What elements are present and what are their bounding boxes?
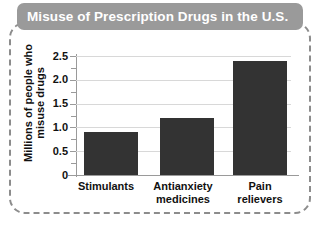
xtick-label-stimulants-line-1: Stimulants: [62, 180, 150, 193]
chart-figure: Misuse of Prescription Drugs in the U.S.…: [0, 0, 327, 230]
ytick-label-2-5: 2.5: [42, 51, 68, 62]
xtick-label-pain-line-2: relievers: [216, 193, 304, 206]
tick-2-0: [70, 80, 76, 81]
minor-tick-0-25: [71, 163, 76, 164]
bar-pain-relievers: [233, 61, 287, 175]
xtick-label-pain-line-1: Pain: [216, 180, 304, 193]
xtick-label-antianxiety-line-1: Antianxiety: [138, 180, 228, 193]
ytick-label-2-0: 2.0: [42, 74, 68, 85]
ytick-label-0: 0: [42, 170, 68, 181]
x-axis-line: [68, 175, 299, 176]
ytick-label-wrap-1-0: 1.0: [38, 122, 68, 133]
xtick-label-antianxiety-line-2: medicines: [138, 193, 228, 206]
chart-title: Misuse of Prescription Drugs in the U.S.: [17, 9, 288, 24]
gridline-2-5: [76, 56, 291, 57]
plot-area: Millions of people who misuse drugs: [0, 30, 327, 230]
ytick-label-wrap-0-5: 0.5: [38, 146, 68, 157]
chart-plot: [76, 56, 291, 175]
ytick-label-1-0: 1.0: [42, 122, 68, 133]
ytick-label-wrap-0: 0: [38, 170, 68, 181]
tick-1-0: [70, 127, 76, 128]
chart-title-bar: Misuse of Prescription Drugs in the U.S.: [17, 3, 303, 30]
bar-antianxiety: [160, 118, 214, 175]
bar-stimulants: [84, 132, 138, 175]
tick-0-5: [70, 151, 76, 152]
xtick-label-stimulants: Stimulants: [62, 180, 150, 193]
ytick-label-wrap-2-0: 2.0: [38, 74, 68, 85]
xtick-label-antianxiety: Antianxiety medicines: [138, 180, 228, 205]
minor-tick-1-75: [71, 92, 76, 93]
minor-tick-1-25: [71, 116, 76, 117]
tick-1-5: [70, 104, 76, 105]
tick-0: [70, 175, 76, 176]
ytick-label-1-5: 1.5: [42, 98, 68, 109]
ytick-label-wrap-1-5: 1.5: [38, 98, 68, 109]
ytick-label-0-5: 0.5: [42, 146, 68, 157]
minor-tick-2-25: [71, 68, 76, 69]
tick-2-5: [70, 56, 76, 57]
y-axis-title-line-1: Millions of people who: [22, 44, 34, 162]
xtick-label-pain-relievers: Pain relievers: [216, 180, 304, 205]
ytick-label-wrap-2-5: 2.5: [38, 51, 68, 62]
minor-tick-0-75: [71, 139, 76, 140]
